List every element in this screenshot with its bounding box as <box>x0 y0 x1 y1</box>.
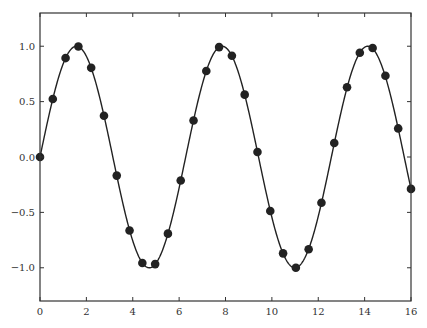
x-tick-label: 12 <box>312 306 325 317</box>
data-point <box>202 67 211 76</box>
y-tick-label: −0.5 <box>11 207 35 218</box>
axes-frame <box>40 13 411 301</box>
x-tick-label: 10 <box>266 306 279 317</box>
x-tick-label: 6 <box>176 306 182 317</box>
data-point <box>125 226 134 235</box>
y-tick-label: 1.0 <box>19 41 35 52</box>
x-tick-label: 4 <box>130 306 136 317</box>
x-tick-label: 16 <box>405 306 418 317</box>
data-point <box>368 44 377 53</box>
data-point <box>138 259 147 268</box>
data-point <box>112 171 121 180</box>
data-point <box>279 249 288 258</box>
data-point <box>151 260 160 269</box>
sine-curve <box>40 46 411 268</box>
data-point <box>394 124 403 133</box>
data-point <box>189 116 198 125</box>
x-axis-ticks: 0246810121416 <box>37 13 418 317</box>
data-point <box>100 111 109 120</box>
x-tick-label: 14 <box>358 306 371 317</box>
x-tick-label: 2 <box>83 306 89 317</box>
data-point <box>164 229 173 238</box>
x-tick-label: 8 <box>222 306 228 317</box>
data-point <box>240 90 249 99</box>
x-tick-label: 0 <box>37 306 43 317</box>
sine-chart: 0246810121416 −1.0−0.50.00.51.0 <box>0 0 427 328</box>
data-point <box>48 95 57 104</box>
data-point <box>381 72 390 81</box>
data-point <box>266 207 275 216</box>
data-point <box>356 48 365 57</box>
y-tick-label: 0.0 <box>19 152 35 163</box>
data-point <box>228 51 237 60</box>
sample-markers <box>36 42 416 272</box>
data-point <box>74 42 83 51</box>
data-point <box>215 43 224 52</box>
data-point <box>330 139 339 148</box>
data-point <box>343 83 352 92</box>
data-point <box>87 64 96 73</box>
data-point <box>61 54 70 63</box>
data-point <box>253 148 262 157</box>
data-point <box>317 198 326 207</box>
sine-line <box>40 46 411 268</box>
y-tick-label: 0.5 <box>19 96 35 107</box>
axes-box <box>40 13 411 301</box>
data-point <box>176 176 185 185</box>
data-point <box>292 263 301 272</box>
data-point <box>304 245 313 254</box>
y-tick-label: −1.0 <box>11 262 35 273</box>
